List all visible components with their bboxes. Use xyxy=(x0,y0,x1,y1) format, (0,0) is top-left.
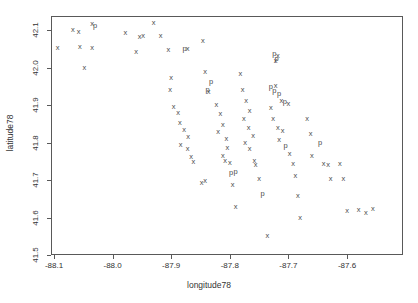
y-axis-label: latitude78 xyxy=(5,93,15,173)
y-tick-label: 41.5 xyxy=(31,244,40,266)
y-tick-mark xyxy=(47,255,51,256)
y-tick-mark xyxy=(47,143,51,144)
x-tick-label: -88.1 xyxy=(45,261,63,270)
x-tick-mark xyxy=(288,255,289,259)
x-tick-label: -88.0 xyxy=(103,261,121,270)
scatter-plot-figure: xxxpxxxxxxxxxxxpxxxxxxxxxxxxxxppxxxxxxxx… xyxy=(0,0,418,303)
y-tick-mark xyxy=(47,218,51,219)
y-tick-label: 41.9 xyxy=(31,94,40,116)
y-tick-label: 42.1 xyxy=(31,19,40,41)
y-tick-mark xyxy=(47,105,51,106)
y-tick-mark xyxy=(47,180,51,181)
y-tick-label: 41.7 xyxy=(31,169,40,191)
y-tick-mark xyxy=(47,30,51,31)
x-tick-mark xyxy=(347,255,348,259)
x-axis-label: longitude78 xyxy=(0,280,418,290)
y-tick-label: 41.6 xyxy=(31,207,40,229)
x-tick-label: -87.9 xyxy=(162,261,180,270)
x-tick-label: -87.7 xyxy=(279,261,297,270)
x-tick-label: -87.8 xyxy=(221,261,239,270)
plot-frame xyxy=(51,16,403,255)
y-tick-mark xyxy=(47,68,51,69)
x-tick-mark xyxy=(171,255,172,259)
y-tick-label: 42.0 xyxy=(31,57,40,79)
y-tick-label: 41.8 xyxy=(31,132,40,154)
x-tick-mark xyxy=(113,255,114,259)
x-tick-label: -87.6 xyxy=(338,261,356,270)
x-tick-mark xyxy=(54,255,55,259)
x-tick-mark xyxy=(230,255,231,259)
